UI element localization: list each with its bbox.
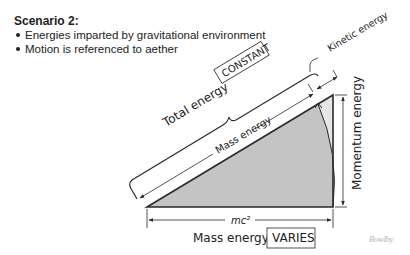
mc2-label: mc² [231,215,250,226]
watermark-logo: Rowlby [369,234,393,244]
varies-label: VARIES [272,231,315,245]
kinetic-energy-arrow: Kinetic energy [308,9,390,92]
mass-energy-varies: Mass energy VARIES [193,228,315,248]
total-energy-label: Total energy [159,80,230,130]
energy-triangle-diagram: Mass energy Kinetic energy Total energy … [0,0,410,255]
momentum-energy-label: Momentum energy [350,76,364,190]
mass-energy-label: Mass energy [193,231,269,245]
base-mc2-arrow: mc² [147,209,333,228]
momentum-energy-arrow: Momentum energy [335,76,364,207]
constant-box: CONSTANT [214,39,274,84]
constant-label: CONSTANT [220,41,273,79]
kinetic-energy-label: Kinetic energy [325,9,390,54]
